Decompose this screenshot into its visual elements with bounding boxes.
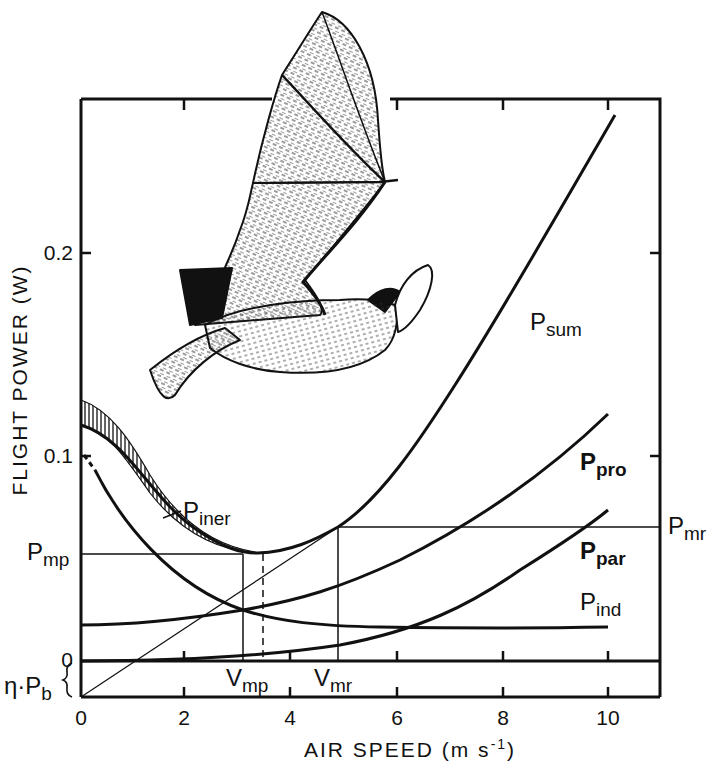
x-tick-0: 0 [75, 706, 87, 729]
x-tick-8: 8 [497, 706, 509, 729]
eta-pb-text: η·Pb [4, 672, 52, 704]
label-psum: Psum [530, 308, 582, 340]
x-tick-4: 4 [284, 706, 296, 729]
bat-ear [395, 265, 432, 332]
x-axis-title: AIR SPEED (m s-1) [304, 736, 516, 761]
bat-illustration [150, 12, 432, 398]
label-vmr: Vmr [314, 664, 353, 696]
y-tick-0-1: 0.1 [44, 444, 73, 467]
x-tick-labels: 0 2 4 6 8 10 [75, 706, 620, 729]
label-pmr: Pmr [668, 512, 707, 544]
x-tick-2: 2 [178, 706, 190, 729]
label-ppar: Ppar [580, 537, 626, 569]
ppar-curve [81, 510, 608, 661]
label-pind: Pind [580, 588, 621, 620]
y-tick-labels: 0 0.1 0.2 [44, 241, 73, 671]
label-ppro: Ppro [580, 448, 627, 480]
flight-power-chart: 0 2 4 6 8 10 0 0.1 0.2 AIR SPEED (m s-1)… [0, 0, 726, 771]
x-tick-10: 10 [596, 706, 619, 729]
y-axis-title: FLIGHT POWER (W) [8, 264, 31, 495]
reference-lines [81, 527, 660, 697]
label-pmp: Pmp [27, 538, 69, 570]
ppro-curve [81, 414, 608, 625]
y-tick-0-2: 0.2 [44, 241, 73, 264]
bat-wing-upper [253, 12, 385, 183]
tangent-line [81, 527, 338, 697]
x-tick-6: 6 [391, 706, 403, 729]
piner-band [81, 400, 255, 553]
pind-curve [95, 470, 608, 628]
label-vmp: Vmp [226, 664, 268, 696]
